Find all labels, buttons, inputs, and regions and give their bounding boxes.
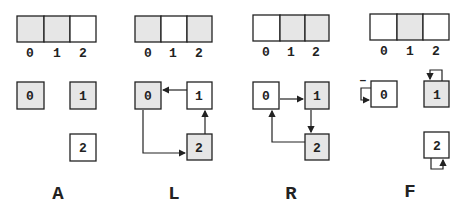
array-index-2: 2 bbox=[195, 46, 203, 61]
array-cell-0 bbox=[17, 16, 44, 42]
node-1-label: 1 bbox=[313, 89, 321, 104]
array-index-2: 2 bbox=[79, 46, 87, 61]
node-1-label: 1 bbox=[79, 89, 87, 104]
edge-2-to-0 bbox=[272, 111, 305, 142]
array-cell-1 bbox=[161, 16, 187, 42]
array-cell-1 bbox=[397, 14, 423, 40]
array-index-0: 0 bbox=[144, 46, 152, 61]
node-0-label: 0 bbox=[26, 89, 34, 104]
panel-l: 0 1 2 0 1 2 L bbox=[135, 16, 212, 205]
array-index-1: 1 bbox=[169, 46, 177, 61]
array-f: 0 1 2 bbox=[370, 14, 449, 59]
array-a: 0 1 2 bbox=[17, 16, 96, 61]
panel-label-f: F bbox=[404, 181, 415, 203]
node-2-label: 2 bbox=[79, 141, 87, 156]
array-cell-2 bbox=[187, 16, 212, 42]
array-l: 0 1 2 bbox=[135, 16, 212, 61]
array-cell-2 bbox=[423, 14, 449, 40]
array-index-0: 0 bbox=[380, 44, 388, 59]
array-cell-1 bbox=[44, 16, 70, 42]
array-index-1: 1 bbox=[53, 46, 61, 61]
edge-1-self-loop bbox=[430, 70, 442, 81]
node-0-label: 0 bbox=[380, 88, 388, 103]
array-cell-0 bbox=[253, 15, 280, 41]
diagram-canvas: 0 1 2 0 1 2 A 0 1 2 0 1 2 L bbox=[0, 0, 463, 209]
node-1-label: 1 bbox=[195, 89, 203, 104]
edge-0-to-2 bbox=[143, 110, 185, 153]
array-cell-0 bbox=[370, 14, 397, 40]
array-index-1: 1 bbox=[287, 45, 295, 60]
panel-label-l: L bbox=[168, 183, 179, 205]
node-2-label: 2 bbox=[433, 139, 441, 154]
node-0-label: 0 bbox=[144, 89, 152, 104]
edge-2-self-loop bbox=[431, 158, 443, 169]
panel-label-r: R bbox=[285, 183, 297, 205]
array-index-0: 0 bbox=[26, 46, 34, 61]
array-cell-1 bbox=[280, 15, 305, 41]
panel-a: 0 1 2 0 1 2 A bbox=[17, 16, 96, 205]
array-index-2: 2 bbox=[312, 45, 320, 60]
array-cell-2 bbox=[70, 16, 96, 42]
panel-label-a: A bbox=[52, 183, 64, 205]
panel-r: 0 1 2 0 1 2 R bbox=[253, 15, 329, 205]
array-index-2: 2 bbox=[432, 44, 440, 59]
node-2-label: 2 bbox=[313, 141, 321, 156]
array-index-0: 0 bbox=[262, 45, 270, 60]
node-2-label: 2 bbox=[195, 141, 203, 156]
panel-f: 0 1 2 – 0 1 2 F bbox=[359, 14, 449, 203]
edge-0-self-loop bbox=[361, 88, 371, 100]
node-1-label: 1 bbox=[433, 88, 441, 103]
array-cell-0 bbox=[135, 16, 161, 42]
array-index-1: 1 bbox=[406, 44, 414, 59]
array-r: 0 1 2 bbox=[253, 15, 329, 60]
annotation-minus: – bbox=[359, 73, 367, 88]
node-0-label: 0 bbox=[262, 89, 270, 104]
array-cell-2 bbox=[305, 15, 329, 41]
